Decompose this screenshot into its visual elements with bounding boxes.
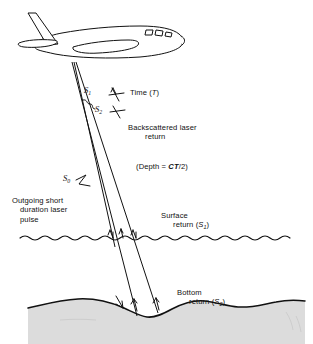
s0-pulse-glyph bbox=[76, 175, 90, 186]
depth-formula-label: (Depth = CT/2) bbox=[136, 162, 188, 171]
bottom-return-label: Bottom return (S2) bbox=[177, 288, 225, 309]
diagram-svg bbox=[0, 0, 313, 344]
water-surface-line bbox=[20, 236, 290, 240]
surface-return-label: Surface return (S1) bbox=[161, 211, 209, 232]
time-label: Time (T) bbox=[130, 88, 159, 97]
label-s0: S0 bbox=[63, 173, 70, 184]
backscatter-label: Backscattered laser return bbox=[128, 123, 197, 142]
survey-aircraft bbox=[18, 13, 184, 58]
seabed-fill bbox=[28, 299, 305, 344]
label-s1: S1 bbox=[84, 85, 91, 96]
outgoing-pulse-label: Outgoing short duration laser pulse bbox=[12, 196, 67, 224]
figure-canvas: S1 S2 S0 Time (T) Backscattered laser re… bbox=[0, 0, 313, 344]
label-s2: S2 bbox=[95, 104, 102, 115]
